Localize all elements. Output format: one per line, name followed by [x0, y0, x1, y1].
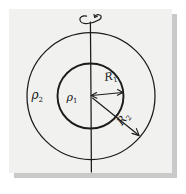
label-rho-inner-subscript: 1	[73, 97, 77, 105]
figure-root: ρ1 ρ2 R1 R2	[0, 0, 186, 194]
label-rho-outer: ρ2	[31, 88, 44, 104]
vertical-rotation-axis	[90, 22, 91, 172]
label-radius-outer: R2	[114, 110, 134, 130]
label-rho-inner: ρ1	[66, 91, 78, 106]
label-rho-outer-subscript: 2	[39, 96, 43, 104]
label-radius-inner: R1	[102, 69, 118, 86]
label-rho-outer-glyph: ρ	[31, 88, 39, 102]
diagram-canvas: ρ1 ρ2 R1 R2	[0, 0, 186, 194]
